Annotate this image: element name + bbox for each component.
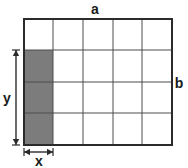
label-a: a	[91, 1, 99, 17]
label-x: x	[35, 153, 43, 168]
rectangle-area-diagram: a b y x	[0, 0, 188, 168]
label-y: y	[3, 90, 11, 106]
label-b: b	[175, 75, 184, 91]
shaded-region	[24, 50, 53, 145]
figure-container: a b y x	[0, 0, 188, 168]
